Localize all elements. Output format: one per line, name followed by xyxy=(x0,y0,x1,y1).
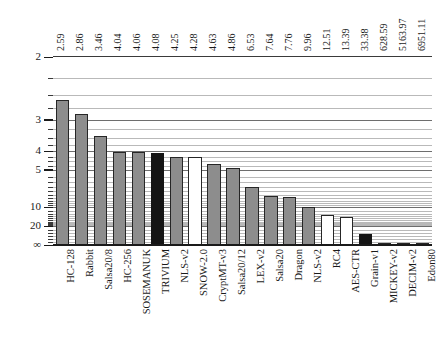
value-label: 2.86 xyxy=(75,34,85,52)
category-label: DECIM-v2 xyxy=(408,249,419,297)
category-label: Edon80 xyxy=(427,249,438,282)
value-labels: 2.592.863.464.044.064.084.254.284.634.86… xyxy=(53,0,432,56)
bar xyxy=(264,196,277,245)
value-label: 4.25 xyxy=(170,34,180,52)
bar xyxy=(283,197,296,245)
category-label: Salsa20 xyxy=(275,249,286,282)
value-label: 9.96 xyxy=(303,34,313,52)
value-label: 2.59 xyxy=(56,34,66,52)
category-label: AES-CTR xyxy=(351,249,362,293)
category-label: SOSEMANUK xyxy=(142,249,153,314)
category-label: LEX-v2 xyxy=(256,249,267,283)
value-label: 7.76 xyxy=(284,34,294,52)
value-label: 13.39 xyxy=(341,29,351,52)
category-label: Salsa20/8 xyxy=(104,249,115,290)
category-label: MICKEY-v2 xyxy=(389,249,400,303)
category-label: HC-128 xyxy=(66,249,77,283)
value-label: 628.59 xyxy=(379,24,389,52)
bar xyxy=(151,153,164,245)
bar xyxy=(56,100,69,245)
y-tick-mark xyxy=(44,119,53,121)
value-label: 4.86 xyxy=(227,34,237,52)
y-tick-label: 10 xyxy=(11,201,41,212)
category-label: Salsa20/12 xyxy=(237,249,248,295)
y-tick-label: 3 xyxy=(11,114,41,125)
bar xyxy=(113,152,126,245)
category-labels: HC-128RabbitSalsa20/8HC-256SOSEMANUKTRIV… xyxy=(53,247,432,340)
value-label: 12.51 xyxy=(322,29,332,52)
bar xyxy=(170,157,183,245)
y-tick-mark xyxy=(44,169,53,171)
y-tick-mark xyxy=(44,226,53,228)
y-tick-mark xyxy=(44,151,53,153)
category-label: CryptMT-v3 xyxy=(218,249,229,302)
bar xyxy=(302,207,315,245)
bar xyxy=(188,157,201,245)
bar xyxy=(75,114,88,245)
value-label: 5163.97 xyxy=(398,19,408,52)
value-label: 3.46 xyxy=(94,34,104,52)
value-label: 6.53 xyxy=(246,34,256,52)
y-tick-label: 5 xyxy=(11,164,41,175)
value-label: 4.06 xyxy=(132,34,142,52)
value-label: 4.04 xyxy=(113,34,123,52)
category-label: SNOW-2.0 xyxy=(199,249,210,296)
value-label: 7.64 xyxy=(265,34,275,52)
y-tick-mark xyxy=(44,57,53,59)
bar xyxy=(207,164,220,245)
value-label: 6951.11 xyxy=(417,19,427,51)
category-label: NLS-v2 xyxy=(313,249,324,283)
bar xyxy=(245,187,258,245)
bar xyxy=(94,136,107,245)
category-label: Grain-v1 xyxy=(370,249,381,287)
bar-chart: 23451020∞ 2.592.863.464.044.064.084.254.… xyxy=(0,0,448,340)
category-label: NLS-v2 xyxy=(180,249,191,283)
bar xyxy=(226,168,239,245)
y-axis: 23451020∞ xyxy=(0,57,53,245)
bar xyxy=(340,217,353,245)
category-label: Rabbit xyxy=(85,249,96,277)
y-tick-label: 2 xyxy=(11,51,41,62)
bar xyxy=(132,152,145,245)
y-tick-label: 4 xyxy=(11,145,41,156)
bars xyxy=(53,57,432,245)
x-axis-baseline xyxy=(53,244,432,246)
category-label: RC4 xyxy=(332,249,343,268)
y-tick-label: ∞ xyxy=(11,239,41,250)
value-label: 4.08 xyxy=(151,34,161,52)
value-label: 33.38 xyxy=(360,29,370,52)
value-label: 4.63 xyxy=(208,34,218,52)
category-label: HC-256 xyxy=(123,249,134,283)
value-label: 4.28 xyxy=(189,34,199,52)
bar xyxy=(321,215,334,245)
category-label: TRIVIUM xyxy=(161,249,172,294)
y-tick-mark xyxy=(44,207,53,209)
y-tick-label: 20 xyxy=(11,220,41,231)
category-label: Dragon xyxy=(294,249,305,281)
y-tick-mark xyxy=(44,245,53,247)
